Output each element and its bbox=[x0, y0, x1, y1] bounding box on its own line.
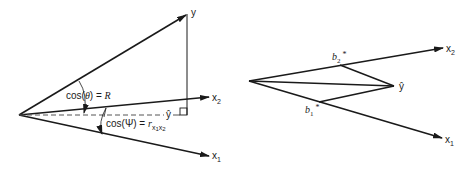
label-x2: x2 bbox=[212, 92, 221, 105]
parallelogram-b2-to-yhat bbox=[340, 65, 394, 86]
label-x2-right: x2 bbox=[446, 43, 455, 56]
label-yhat-right: ŷ bbox=[399, 81, 404, 92]
label-x1-right: x1 bbox=[445, 134, 454, 147]
parallelogram-b1-to-yhat bbox=[319, 86, 394, 102]
vector-yhat-right bbox=[249, 81, 394, 86]
right-diagram: x2 x1 ŷ b2* b1* bbox=[249, 43, 455, 147]
left-diagram: y x2 x1 ŷ cos(θ) = R cos(Ψ) = rx1x2 bbox=[19, 7, 221, 163]
vector-x2 bbox=[19, 97, 209, 115]
label-b2-star: b2* bbox=[332, 50, 347, 65]
label-x1: x1 bbox=[212, 150, 221, 163]
label-yhat: ŷ bbox=[166, 109, 171, 120]
vector-x1-right bbox=[249, 81, 442, 138]
right-angle-marker bbox=[180, 108, 187, 115]
label-b1-star: b1* bbox=[305, 103, 320, 118]
vector-geometry-figure: y x2 x1 ŷ cos(θ) = R cos(Ψ) = rx1x2 x2 x… bbox=[0, 0, 469, 171]
label-y: y bbox=[191, 7, 196, 18]
label-cos-theta-eq-R: cos(θ) = R bbox=[66, 90, 111, 101]
label-cos-psi-eq-r: cos(Ψ) = rx1x2 bbox=[106, 118, 166, 132]
